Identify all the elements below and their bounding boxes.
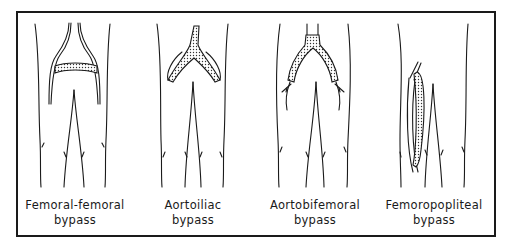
panel-femoral-femoral-drawing — [35, 23, 110, 187]
label-aortobifemoral: Aortobifemoral bypass — [253, 198, 377, 228]
label-aortoiliac: Aortoiliac bypass — [131, 198, 255, 228]
panel-aortoiliac-drawing — [157, 24, 228, 187]
label-femoral-femoral: Femoral-femoral bypass — [13, 198, 137, 228]
label-femoropopliteal: Femoropopliteal bypass — [372, 198, 496, 228]
panel-aortobifemoral-drawing — [276, 24, 350, 187]
panel-femoropopliteal-drawing — [398, 24, 468, 187]
